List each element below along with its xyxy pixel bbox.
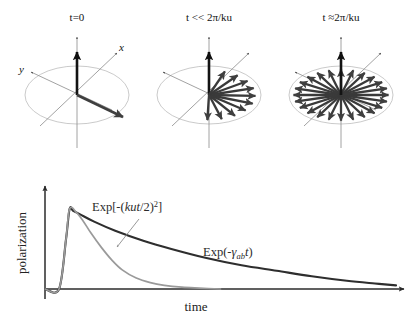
exponential-label-subscript: ab xyxy=(236,251,245,261)
panel-t-large-title: t ≈2π/ku xyxy=(323,11,360,23)
panel-t0-title: t=0 xyxy=(70,11,85,23)
panel-t-small-title: t << 2π/ku xyxy=(186,11,233,23)
exponential-label-suffix: ) xyxy=(248,245,252,259)
exponential-curve-label: Exp(-γabt) xyxy=(203,245,253,261)
gaussian-label-divisor: /2) xyxy=(140,200,154,214)
gaussian-label-prefix: Exp[-( xyxy=(92,200,125,214)
polarization-vector xyxy=(207,95,209,120)
gaussian-label-variable: kut xyxy=(125,200,141,214)
panel-t0-y-label: y xyxy=(18,63,24,75)
plot-y-axis-label: polarization xyxy=(14,211,29,274)
plot-x-axis-label: time xyxy=(184,299,207,314)
gaussian-label-suffix: ] xyxy=(158,200,162,214)
polarization-dephasing-figure: t=0 x y t << 2π/ku t ≈2π/ku xyxy=(0,0,414,319)
exponential-label-prefix: Exp(- xyxy=(203,245,231,259)
panel-t0-x-label: x xyxy=(118,41,124,53)
gaussian-curve-label: Exp[-(kut/2)2] xyxy=(92,199,162,215)
